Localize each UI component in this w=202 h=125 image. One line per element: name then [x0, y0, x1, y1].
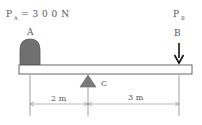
force-a-subscript: A	[13, 15, 18, 21]
force-b-symbol: P	[173, 9, 179, 19]
dimension-right-label: 3 m	[128, 93, 144, 102]
point-b-label: B	[174, 28, 181, 38]
lever-diagram: P A = 3 0 0 N P B A B C 2 m 3 m	[0, 0, 202, 125]
force-a-value: = 3 0 0 N	[21, 9, 70, 19]
force-b-subscript: B	[181, 15, 185, 21]
load-block-a	[20, 39, 40, 65]
beam	[19, 65, 192, 74]
point-a-label: A	[26, 27, 34, 37]
pivot-triangle	[80, 75, 96, 87]
dimension-left-label: 2 m	[51, 94, 67, 103]
force-a-symbol: P	[6, 9, 12, 19]
pivot-label: C	[101, 79, 107, 88]
